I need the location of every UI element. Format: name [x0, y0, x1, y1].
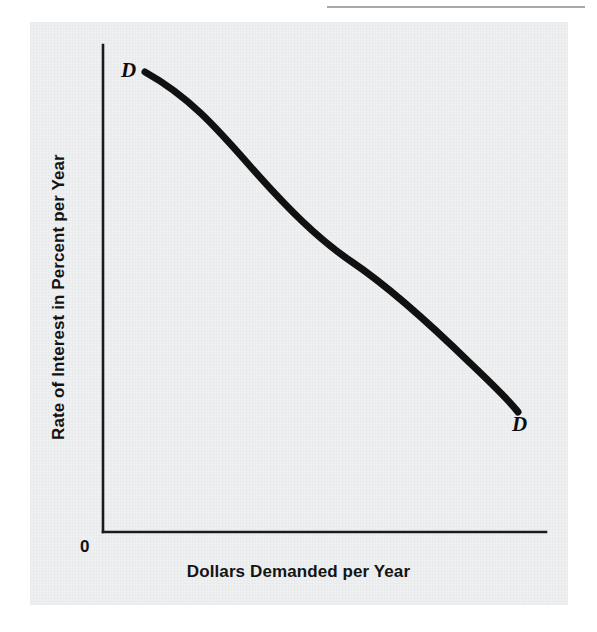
demand-curve — [145, 72, 518, 412]
curve-label-top: D — [121, 58, 136, 83]
origin-label: 0 — [80, 537, 89, 557]
curve-label-bottom: D — [512, 412, 527, 437]
x-axis-title: Dollars Demanded per Year — [0, 562, 597, 582]
demand-curve-plot — [0, 0, 597, 632]
y-axis-title: Rate of Interest in Percent per Year — [49, 154, 69, 440]
